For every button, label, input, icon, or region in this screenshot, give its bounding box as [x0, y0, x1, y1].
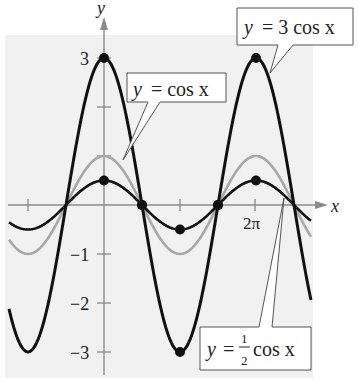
callout-half-den: 2: [241, 353, 248, 368]
y-tick-label-m1: −1: [70, 245, 89, 265]
x-axis-arrow-icon: [315, 201, 328, 209]
key-point-dot: [213, 200, 223, 210]
svg-text:y = cos x: y = cos x: [131, 78, 209, 101]
cosine-amplitude-chart: y x 3 −1 −2 −3 2π y = 3 cos x y = cos x …: [0, 0, 359, 383]
key-point-dot: [251, 53, 261, 63]
y-axis-arrow-icon: [100, 17, 108, 30]
y-tick-label-m3: −3: [70, 343, 89, 363]
key-point-dot: [251, 176, 261, 186]
y-tick-label-m2: −2: [70, 294, 89, 314]
key-point-dot: [175, 347, 185, 357]
callout-half-text: cos x: [253, 338, 295, 360]
y-tick-label-3: 3: [80, 49, 89, 69]
key-point-dot: [99, 53, 109, 63]
key-point-dot: [99, 176, 109, 186]
callout-3cos-text: = 3 cos x: [262, 16, 335, 38]
x-tick-label-2pi: 2π: [243, 214, 261, 233]
callout-cos-y: y: [131, 78, 142, 101]
callout-half-y: y: [205, 338, 216, 361]
y-axis-label: y: [95, 0, 105, 18]
callout-cos-text: = cos x: [151, 78, 209, 100]
svg-text:y = 3 cos x: y = 3 cos x: [242, 16, 335, 39]
callout-3cos-y: y: [242, 16, 253, 39]
callout-half-num: 1: [241, 331, 248, 346]
key-point-dot: [137, 200, 147, 210]
x-axis-label: x: [330, 196, 339, 216]
key-point-dot: [175, 225, 185, 235]
callout-half-eq: =: [223, 338, 234, 360]
